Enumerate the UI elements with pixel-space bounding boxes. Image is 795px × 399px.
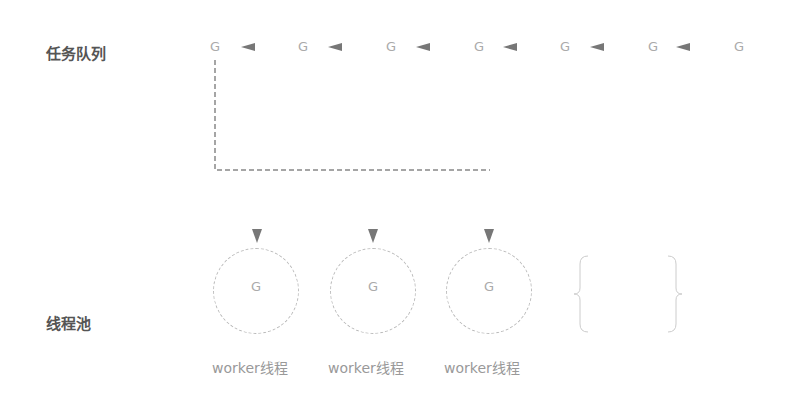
- left-arrow-icon: [590, 43, 604, 51]
- pool-label: 线程池: [46, 312, 91, 333]
- left-arrow-icon: [241, 43, 255, 51]
- connector-lines: [0, 0, 795, 399]
- queue-item: G: [210, 39, 220, 54]
- left-arrow-icon: [328, 43, 342, 51]
- down-arrow-icon: [484, 229, 494, 243]
- down-arrow-icon: [368, 229, 378, 243]
- worker-thread: G: [330, 248, 416, 334]
- queue-item: G: [298, 39, 308, 54]
- worker-thread: G: [213, 248, 299, 334]
- left-arrow-icon: [503, 43, 517, 51]
- queue-item: G: [734, 39, 744, 54]
- queue-label: 任务队列: [46, 42, 106, 63]
- worker-label: worker线程: [212, 357, 288, 377]
- worker-task: G: [447, 279, 531, 294]
- left-arrow-icon: [676, 43, 690, 51]
- worker-label: worker线程: [328, 357, 404, 377]
- worker-thread: G: [446, 248, 532, 334]
- queue-item: G: [474, 39, 484, 54]
- queue-item: G: [648, 39, 658, 54]
- worker-label: worker线程: [444, 357, 520, 377]
- worker-task: G: [331, 279, 415, 294]
- worker-task: G: [214, 279, 298, 294]
- left-arrow-icon: [416, 43, 430, 51]
- down-arrow-icon: [252, 229, 262, 243]
- queue-item: G: [560, 39, 570, 54]
- queue-item: G: [386, 39, 396, 54]
